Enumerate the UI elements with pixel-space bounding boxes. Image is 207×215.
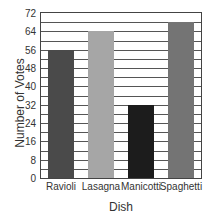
y-tick-label: 24 — [16, 118, 36, 129]
y-tick-label: 32 — [16, 99, 36, 110]
y-tick-label: 40 — [16, 81, 36, 92]
plot-area — [40, 12, 202, 179]
y-tick-label: 64 — [16, 26, 36, 37]
bar-ravioli — [48, 50, 74, 178]
x-axis-label: Dish — [40, 200, 202, 214]
y-tick-label: 56 — [16, 44, 36, 55]
y-tick-label: 72 — [16, 8, 36, 19]
bar-spaghetti — [168, 22, 194, 178]
bar-lasagna — [88, 31, 114, 178]
y-tick-label: 16 — [16, 136, 36, 147]
x-tick-label: Spaghetti — [156, 181, 206, 192]
y-tick-label: 0 — [16, 173, 36, 184]
y-tick-label: 8 — [16, 154, 36, 165]
bar-manicotti — [128, 105, 154, 178]
y-tick-label: 48 — [16, 63, 36, 74]
